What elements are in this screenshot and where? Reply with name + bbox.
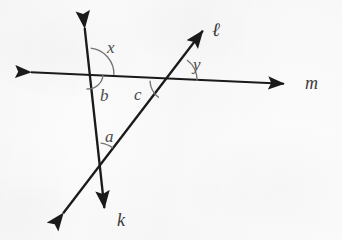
line-m — [31, 72, 284, 83]
line-label-m: m — [305, 74, 318, 92]
angle-label-a: a — [105, 128, 114, 145]
line-l — [63, 31, 203, 213]
diagram-canvas: x b c y a ℓ m k — [0, 0, 342, 240]
geometry-figure — [0, 0, 342, 240]
angle-label-y: y — [193, 56, 201, 73]
line-label-k: k — [117, 211, 125, 229]
angle-label-b: b — [100, 87, 109, 104]
line-label-l: ℓ — [212, 20, 220, 39]
angle-label-x: x — [107, 39, 115, 56]
angle-label-c: c — [134, 86, 142, 103]
